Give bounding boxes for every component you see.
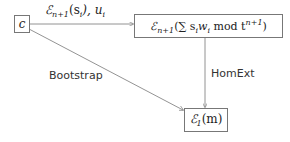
- node-enc-sum-label: ℰn+1(∑ siwi mod tn+1): [150, 18, 267, 35]
- node-enc-sum: ℰn+1(∑ siwi mod tn+1): [134, 14, 283, 38]
- node-enc-m-label: ℰ1(m): [190, 112, 223, 128]
- node-c-label: c: [19, 17, 26, 31]
- diagram: c ℰn+1(∑ siwi mod tn+1) ℰ1(m) ℰn+1(si), …: [0, 0, 290, 142]
- node-c: c: [14, 15, 30, 33]
- node-enc-m: ℰ1(m): [184, 108, 228, 132]
- edge-label-bootstrap: Bootstrap: [49, 69, 103, 82]
- edge-label-homext: HomExt: [211, 67, 255, 80]
- edge-label-c-to-enc-sum: ℰn+1(si), ui: [45, 3, 105, 19]
